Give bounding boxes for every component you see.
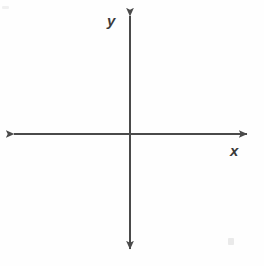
scan-artifact-smudge [228, 238, 234, 245]
y-axis-label: y [107, 13, 115, 28]
coordinate-plane-figure: y x [0, 0, 264, 266]
x-axis-label: x [230, 143, 238, 158]
axes-graphic [0, 0, 264, 266]
scan-artifact-speck [2, 6, 9, 9]
